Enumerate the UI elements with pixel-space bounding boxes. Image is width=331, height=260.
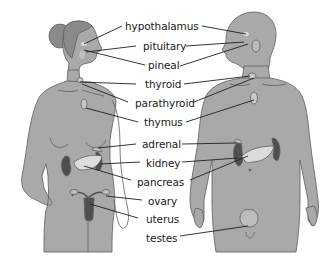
label-pancreas: pancreas	[137, 176, 184, 188]
label-parathyroid: parathyroid	[135, 97, 195, 109]
label-pineal: pineal	[148, 59, 179, 71]
label-hypothalamus: hypothalamus	[125, 20, 199, 32]
endocrine-diagram: hypothalamus pituitary pineal thyroid pa…	[0, 0, 331, 260]
label-kidney: kidney	[146, 157, 180, 169]
label-thymus: thymus	[144, 116, 183, 128]
label-adrenal: adrenal	[142, 138, 181, 150]
label-testes: testes	[146, 232, 178, 244]
male-figure	[190, 12, 319, 252]
label-uterus: uterus	[146, 213, 179, 225]
label-ovary: ovary	[148, 195, 177, 207]
label-thyroid: thyroid	[145, 78, 181, 90]
label-pituitary: pituitary	[143, 40, 186, 52]
female-figure	[22, 21, 129, 252]
